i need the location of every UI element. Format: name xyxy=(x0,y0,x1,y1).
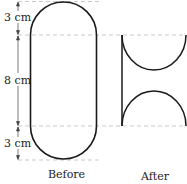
caption-before: Before xyxy=(48,168,85,181)
dimension-label-middle: 8 cm xyxy=(4,74,32,87)
after-bottom-arch xyxy=(122,91,186,126)
after-shape xyxy=(122,35,186,126)
diagram-canvas: 3 cm 8 cm 3 cm Before After xyxy=(0,0,187,184)
dimension-label-top: 3 cm xyxy=(4,11,32,24)
dimension-label-bottom: 3 cm xyxy=(4,137,32,150)
before-shape xyxy=(31,2,97,159)
caption-after: After xyxy=(140,170,170,183)
guide-lines xyxy=(18,2,187,161)
after-top-bowl xyxy=(122,35,186,70)
